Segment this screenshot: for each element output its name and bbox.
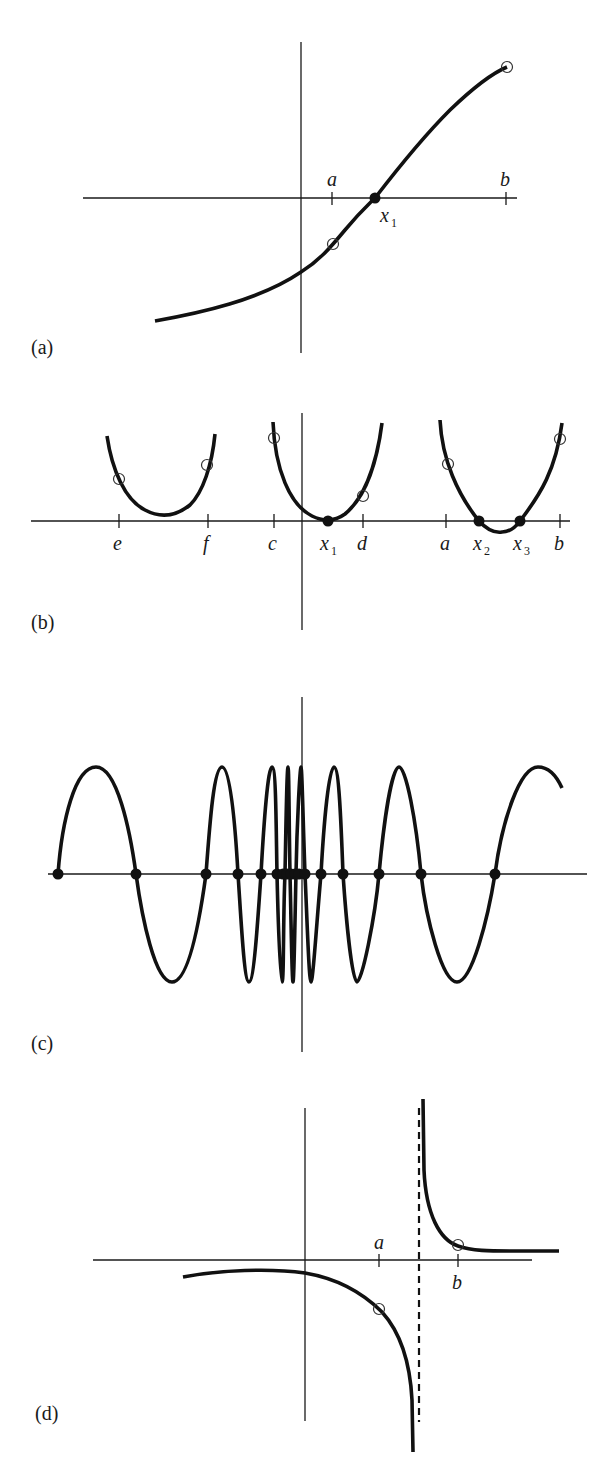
panel-c-root: [131, 869, 142, 880]
panel-b-open-point-fd: [358, 491, 369, 502]
panel-b-parabola-two-roots: [440, 420, 562, 532]
panel-d-caption: (d): [35, 1402, 58, 1425]
root-finding-figure: a b x 1 (a) e f c x 1 d a: [0, 0, 601, 1472]
panel-c-root: [338, 869, 349, 880]
panel-c-caption: (c): [31, 1032, 53, 1055]
panel-b-label-b: b: [554, 532, 564, 554]
panel-c-root: [201, 869, 212, 880]
panel-b-open-point-fc: [269, 433, 280, 444]
panel-d-open-point-fb: [453, 1240, 464, 1251]
panel-c-root: [416, 869, 427, 880]
panel-a-label-sub1: 1: [391, 216, 397, 230]
panel-b-label-x1: x: [319, 532, 329, 554]
panel-a: a b x 1 (a): [31, 42, 517, 359]
panel-b-label-f: f: [203, 532, 211, 555]
panel-a-caption: (a): [31, 336, 53, 359]
panel-b-caption: (b): [31, 611, 54, 634]
panel-a-open-point-fb: [502, 62, 513, 73]
panel-b-open-point-ff: [202, 460, 213, 471]
panel-b-root-x3: [515, 516, 526, 527]
panel-b-label-x3-sub: 3: [524, 544, 530, 558]
panel-c-root: [53, 869, 64, 880]
panel-b-open-point-fb: [555, 434, 566, 445]
panel-b-label-x1-sub: 1: [331, 544, 337, 558]
panel-d-left-branch: [183, 1270, 413, 1452]
panel-b-label-d: d: [357, 532, 368, 554]
panel-a-label-a: a: [327, 168, 337, 190]
panel-c: (c): [31, 697, 587, 1055]
panel-d: a b (d): [35, 1099, 559, 1452]
panel-c-root: [256, 869, 267, 880]
panel-d-open-point-fa: [374, 1304, 385, 1315]
panel-d-label-b: b: [452, 1271, 462, 1293]
panel-a-curve: [155, 67, 507, 321]
panel-b-parabola-double-root: [273, 422, 382, 520]
panel-b-label-x2: x: [472, 532, 482, 554]
panel-c-root: [300, 869, 311, 880]
panel-a-open-point-fa: [328, 239, 339, 250]
panel-b-label-x3: x: [512, 532, 522, 554]
panel-b: e f c x 1 d a x 2 x 3 b (b): [31, 413, 570, 634]
panel-a-label-b: b: [500, 168, 510, 190]
panel-b-label-c: c: [268, 532, 277, 554]
panel-d-label-a: a: [374, 1231, 384, 1253]
panel-b-open-point-fe: [114, 474, 125, 485]
panel-a-root-x1: [370, 193, 381, 204]
panel-b-label-x2-sub: 2: [484, 544, 490, 558]
panel-c-root: [233, 869, 244, 880]
panel-c-root: [490, 869, 501, 880]
panel-b-open-point-fa: [443, 459, 454, 470]
panel-b-root-x2: [474, 516, 485, 527]
panel-d-right-branch: [423, 1099, 559, 1251]
panel-b-root-x1: [323, 516, 334, 527]
panel-b-label-e: e: [113, 532, 122, 554]
panel-c-root: [316, 869, 327, 880]
panel-b-label-a: a: [440, 532, 450, 554]
panel-c-root: [374, 869, 385, 880]
panel-a-label-x: x: [379, 204, 389, 226]
